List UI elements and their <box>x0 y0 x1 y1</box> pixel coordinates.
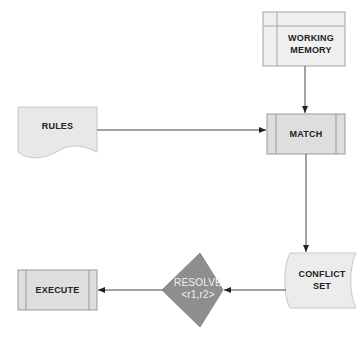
rules-label: RULES <box>18 120 97 134</box>
resolve-label: RESOLVE <r1,r2> <box>166 277 234 305</box>
working-memory-label-line1: WORKING <box>277 32 345 44</box>
working-memory-label: WORKING MEMORY <box>277 30 345 60</box>
rules-label-text: RULES <box>18 120 97 132</box>
match-label-text: MATCH <box>276 128 336 140</box>
resolve-label-line2: <r1,r2> <box>162 289 234 301</box>
execute-label-text: EXECUTE <box>26 284 89 296</box>
conflict-set-label-line2: SET <box>290 280 354 292</box>
match-label: MATCH <box>276 128 336 142</box>
working-memory-label-line2: MEMORY <box>277 44 345 56</box>
resolve-label-line1: RESOLVE <box>162 277 234 289</box>
conflict-set-label-line1: CONFLICT <box>290 268 354 280</box>
execute-label: EXECUTE <box>26 284 89 298</box>
conflict-set-label: CONFLICT SET <box>290 268 354 296</box>
